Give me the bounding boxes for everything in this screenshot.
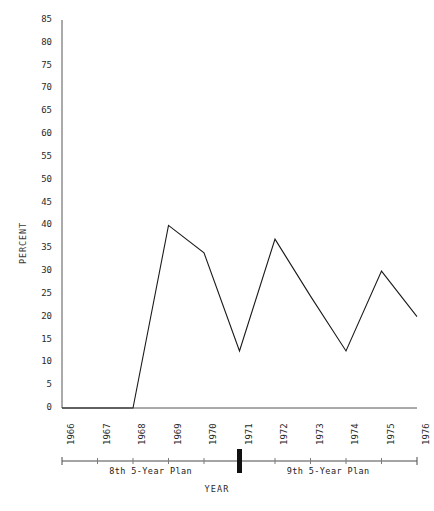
x-axis-title: YEAR xyxy=(0,484,434,494)
plan-period-label: 8th 5-Year Plan xyxy=(109,466,192,476)
chart-container: PERCENT 05101520253035404550556065707580… xyxy=(0,0,434,511)
data-series-line xyxy=(62,225,417,408)
plan-period-label: 9th 5-Year Plan xyxy=(287,466,370,476)
chart-plot-area xyxy=(0,0,434,511)
